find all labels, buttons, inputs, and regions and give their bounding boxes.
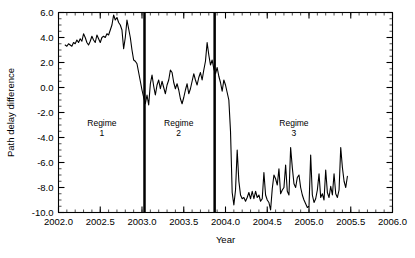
y-tick-label: -4.0 bbox=[37, 132, 53, 143]
x-tick-label: 2003.5 bbox=[169, 216, 198, 227]
x-axis-title: Year bbox=[216, 234, 235, 245]
data-layer bbox=[65, 13, 347, 213]
x-tick-label: 2003.0 bbox=[127, 216, 156, 227]
y-tick-label: 6.0 bbox=[40, 7, 53, 18]
x-tick-label: 2006.0 bbox=[378, 216, 407, 227]
y-tick-label: 0.0 bbox=[40, 82, 53, 93]
minor-ticks bbox=[59, 13, 393, 213]
y-tick-label: -8.0 bbox=[37, 182, 53, 193]
major-ticks bbox=[59, 13, 393, 213]
y-tick-label: 4.0 bbox=[40, 32, 53, 43]
regime-3-annotation: Regime3 bbox=[279, 118, 309, 138]
y-tick-label: -2.0 bbox=[37, 107, 53, 118]
path-delay-difference-chart: 2002.02002.52003.02003.52004.02004.52005… bbox=[0, 0, 415, 258]
chart-figure: 2002.02002.52003.02003.52004.02004.52005… bbox=[0, 0, 415, 258]
x-tick-label: 2002.5 bbox=[86, 216, 115, 227]
regime-3-label-line1: Regime bbox=[279, 118, 309, 128]
regime-2-annotation: Regime2 bbox=[164, 118, 194, 138]
x-tick-label: 2004.5 bbox=[253, 216, 282, 227]
regime-1-label-line2: 1 bbox=[100, 128, 105, 138]
y-tick-label: -10.0 bbox=[32, 207, 54, 218]
x-tick-label: 2004.0 bbox=[211, 216, 240, 227]
x-tick-label: 2005.0 bbox=[294, 216, 323, 227]
regime-2-label-line1: Regime bbox=[164, 118, 194, 128]
y-tick-label: 2.0 bbox=[40, 57, 53, 68]
regime-3-label-line2: 3 bbox=[292, 128, 297, 138]
x-tick-label: 2005.5 bbox=[336, 216, 365, 227]
regime-1-annotation: Regime1 bbox=[87, 118, 117, 138]
regime-1-label-line1: Regime bbox=[87, 118, 117, 128]
y-axis-title: Path delay difference bbox=[5, 68, 16, 157]
tick-labels: 2002.02002.52003.02003.52004.02004.52005… bbox=[32, 7, 407, 227]
plot-frame bbox=[59, 13, 393, 213]
data-line bbox=[65, 15, 347, 210]
regime-2-label-line2: 2 bbox=[176, 128, 181, 138]
y-tick-label: -6.0 bbox=[37, 157, 53, 168]
